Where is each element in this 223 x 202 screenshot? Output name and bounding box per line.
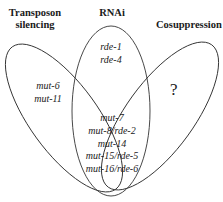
- gene-label: mut-16/rde-6: [80, 163, 144, 176]
- gene-label: rde-1: [96, 41, 126, 54]
- rnai-title-text: RNAi: [99, 7, 125, 18]
- transposon-silencing-title: Transposon silencing: [6, 7, 64, 30]
- gene-label: mut-15/rde-5: [80, 150, 144, 163]
- gene-label: mut-7: [80, 112, 144, 125]
- gene-label: mut-6: [30, 80, 66, 93]
- transposon-title-line1: Transposon: [9, 7, 61, 18]
- all-three-region: mut-7 mut-8/rde-2 mut-14 mut-15/rde-5 mu…: [80, 112, 144, 176]
- cosuppression-title: Cosuppression: [156, 19, 220, 31]
- gene-label: mut-14: [80, 138, 144, 151]
- cosuppression-unknown-mark: ?: [170, 81, 178, 99]
- rnai-title: RNAi: [97, 7, 127, 19]
- gene-label: mut-11: [30, 93, 66, 106]
- gene-label: mut-8/rde-2: [80, 125, 144, 138]
- transposon-only-region: mut-6 mut-11: [30, 80, 66, 105]
- rnai-only-region: rde-1 rde-4: [96, 41, 126, 66]
- transposon-title-line2: silencing: [15, 19, 54, 30]
- cosuppression-title-text: Cosuppression: [156, 19, 222, 30]
- gene-label: rde-4: [96, 54, 126, 67]
